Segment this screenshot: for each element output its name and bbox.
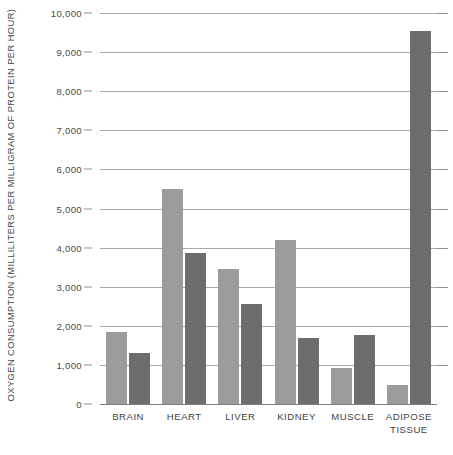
right-axis-tick-mark: [437, 326, 448, 327]
x-axis-labels: BRAINHEARTLIVERKIDNEYMUSCLEADIPOSETISSUE: [100, 406, 437, 454]
bar-group: [100, 13, 156, 404]
x-axis-label: MUSCLE: [325, 410, 381, 423]
y-axis-tick-mark: [84, 169, 92, 170]
y-axis-tick-label: 2,000: [56, 320, 82, 331]
bar-group: [269, 13, 325, 404]
bar-group: [212, 13, 268, 404]
axis-baseline: [100, 404, 437, 405]
x-axis-label-line: ADIPOSE: [381, 410, 437, 423]
y-axis-title-text: OXYGEN CONSUMPTION (MILLILITERS PER MILL…: [6, 9, 16, 402]
bar: [162, 189, 183, 404]
right-axis-tick-mark: [437, 130, 448, 131]
right-axis-tick-mark: [437, 91, 448, 92]
x-axis-label-line: HEART: [156, 410, 212, 423]
right-axis-tick-mark: [437, 169, 448, 170]
y-axis-tick-label: 9,000: [56, 47, 82, 58]
bar-chart: OXYGEN CONSUMPTION (MILLILITERS PER MILL…: [0, 0, 453, 455]
y-axis-tick-mark: [84, 364, 92, 365]
bar: [354, 335, 375, 404]
bar: [106, 332, 127, 404]
y-axis-title: OXYGEN CONSUMPTION (MILLILITERS PER MILL…: [0, 0, 22, 410]
y-axis-tick-mark: [84, 91, 92, 92]
y-axis-tick-mark: [84, 286, 92, 287]
bar: [298, 338, 319, 404]
right-axis-tick-mark: [437, 209, 448, 210]
bar: [241, 304, 262, 404]
y-axis-tick-label: 8,000: [56, 86, 82, 97]
y-axis-tick-mark: [84, 13, 92, 14]
x-axis-label-line: BRAIN: [100, 410, 156, 423]
x-axis-label: ADIPOSETISSUE: [381, 410, 437, 436]
y-axis-tick-mark: [84, 130, 92, 131]
x-axis-label: HEART: [156, 410, 212, 423]
x-axis-label-line: KIDNEY: [269, 410, 325, 423]
bar-group: [381, 13, 437, 404]
bar: [387, 385, 408, 404]
bar: [218, 269, 239, 404]
bar: [331, 368, 352, 404]
right-axis-ticks: [437, 13, 451, 404]
y-axis-tick-label: 3,000: [56, 281, 82, 292]
y-axis-tick-mark: [84, 325, 92, 326]
bar-group: [325, 13, 381, 404]
bar: [275, 240, 296, 404]
y-axis-tick-label: 10,000: [51, 8, 82, 19]
x-axis-label-line: MUSCLE: [325, 410, 381, 423]
y-axis-tick-mark: [84, 208, 92, 209]
y-axis-tick-mark: [84, 404, 92, 405]
plot-area: [100, 13, 437, 404]
bars-layer: [100, 13, 437, 404]
y-axis-tick-mark: [84, 52, 92, 53]
y-axis-tick-mark: [84, 247, 92, 248]
y-axis-tick-label: 7,000: [56, 125, 82, 136]
y-axis-tick-labels: 10,0009,0008,0007,0006,0005,0004,0003,00…: [22, 0, 92, 410]
x-axis-label-line: LIVER: [212, 410, 268, 423]
x-axis-label-line: TISSUE: [381, 423, 437, 436]
right-axis-tick-mark: [437, 365, 448, 366]
right-axis-tick-mark: [437, 52, 448, 53]
bar: [129, 353, 150, 404]
x-axis-label: KIDNEY: [269, 410, 325, 423]
x-axis-label: LIVER: [212, 410, 268, 423]
y-axis-tick-label: 0: [76, 399, 82, 410]
x-axis-label: BRAIN: [100, 410, 156, 423]
right-axis-tick-mark: [437, 287, 448, 288]
y-axis-tick-label: 1,000: [56, 359, 82, 370]
right-axis-tick-mark: [437, 13, 448, 14]
y-axis-tick-label: 4,000: [56, 242, 82, 253]
bar: [185, 253, 206, 404]
bar-group: [156, 13, 212, 404]
y-axis-tick-label: 6,000: [56, 164, 82, 175]
right-axis-tick-mark: [437, 248, 448, 249]
bar: [410, 31, 431, 404]
y-axis-tick-label: 5,000: [56, 203, 82, 214]
